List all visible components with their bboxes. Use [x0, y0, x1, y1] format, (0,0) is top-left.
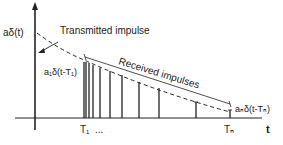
transmitted-label: Transmitted impulse [60, 25, 150, 36]
transmitted-arrow-icon [38, 48, 45, 53]
received-bracket [85, 57, 230, 104]
multipath-impulse-diagram: aδ(t) Transmitted impulse a₁δ(t-T₁) Rece… [0, 0, 283, 145]
tick-T1: T₁ [80, 124, 90, 135]
received-label: Received impulses [117, 55, 200, 90]
x-axis-label: t [266, 123, 270, 135]
y-axis-arrow-icon [32, 2, 38, 10]
y-axis-label: aδ(t) [3, 27, 24, 38]
last-impulse-label: aₙδ(t-Tₙ) [235, 104, 270, 114]
first-impulse-label: a₁δ(t-T₁) [44, 67, 77, 77]
tick-Tn: Tₙ [224, 124, 234, 135]
tick-ellipsis: ... [95, 124, 103, 135]
